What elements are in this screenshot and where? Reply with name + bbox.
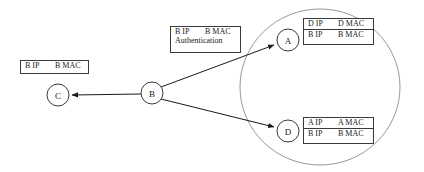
table-row: A IP A MAC [304, 118, 373, 128]
a-table-row0-mac: D MAC [338, 20, 364, 28]
d-table-row0-mac: A MAC [338, 119, 364, 127]
node-b[interactable]: B [141, 82, 163, 104]
auth-packet-ip: B IP [175, 28, 205, 36]
edge-b-to-c [72, 94, 141, 95]
node-d-label: D [285, 127, 292, 137]
d-arp-table: A IP A MAC B IP B MAC [303, 117, 374, 144]
d-table-row1-mac: B MAC [338, 130, 364, 138]
a-arp-table: D IP D MAC B IP B MAC [303, 18, 374, 45]
node-b-label: B [149, 89, 155, 99]
d-table-row1-ip: B IP [308, 130, 338, 138]
node-c[interactable]: C [47, 84, 69, 106]
c-entry-mac: B MAC [55, 62, 81, 70]
edge-b-to-d [161, 99, 274, 127]
a-table-row1-mac: B MAC [338, 31, 364, 39]
d-table-row0-ip: A IP [308, 119, 338, 127]
node-d[interactable]: D [277, 120, 299, 142]
table-row: D IP D MAC [304, 19, 373, 29]
auth-packet-type: Authentication [171, 37, 240, 45]
node-c-label: C [55, 91, 61, 101]
a-table-row0-ip: D IP [308, 20, 338, 28]
node-a[interactable]: A [277, 29, 299, 51]
c-arp-entry-box: B IP B MAC [20, 60, 89, 74]
node-a-label: A [285, 36, 292, 46]
authentication-packet-box: B IP B MAC Authentication [170, 26, 241, 53]
c-entry-ip: B IP [25, 62, 55, 70]
table-row: B IP B MAC [21, 61, 88, 71]
diagram-canvas: C B A D B IP B MAC B IP B MAC Authentica… [0, 0, 424, 172]
auth-packet-mac: B MAC [205, 28, 231, 36]
table-row: B IP B MAC [304, 29, 373, 40]
table-row: B IP B MAC [304, 128, 373, 139]
a-table-row1-ip: B IP [308, 31, 338, 39]
